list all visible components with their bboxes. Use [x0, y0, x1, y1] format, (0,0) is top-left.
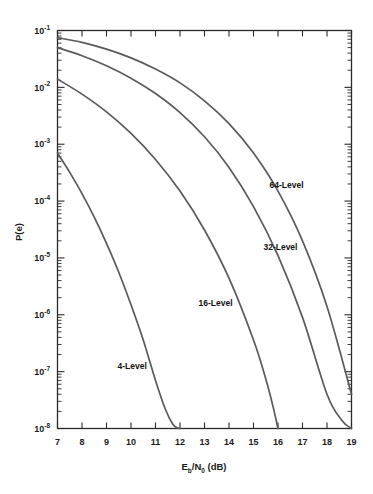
- x-tick-label: 7: [55, 437, 60, 447]
- series-label-16-level: 16-Level: [199, 298, 233, 308]
- x-tick-label: 17: [297, 437, 307, 447]
- ber-performance-chart: 10-110-210-310-410-510-610-710-8 7891011…: [0, 0, 373, 494]
- chart-background: [0, 0, 373, 494]
- x-tick-label: 8: [79, 437, 84, 447]
- x-tick-label: 16: [273, 437, 283, 447]
- series-label-4-level: 4-Level: [118, 361, 147, 371]
- x-tick-label: 9: [104, 437, 109, 447]
- x-tick-label: 11: [151, 437, 161, 447]
- chart-container: 10-110-210-310-410-510-610-710-8 7891011…: [0, 0, 373, 494]
- x-tick-label: 14: [224, 437, 234, 447]
- series-label-64-level: 64-Level: [270, 180, 304, 190]
- y-axis-title: P(e): [13, 223, 24, 241]
- x-tick-label: 13: [199, 437, 209, 447]
- x-tick-label: 18: [322, 437, 332, 447]
- x-tick-label: 12: [175, 437, 185, 447]
- x-tick-label: 15: [248, 437, 258, 447]
- x-tick-label: 19: [346, 437, 356, 447]
- x-tick-label: 10: [126, 437, 136, 447]
- series-label-32-level: 32-Level: [263, 242, 297, 252]
